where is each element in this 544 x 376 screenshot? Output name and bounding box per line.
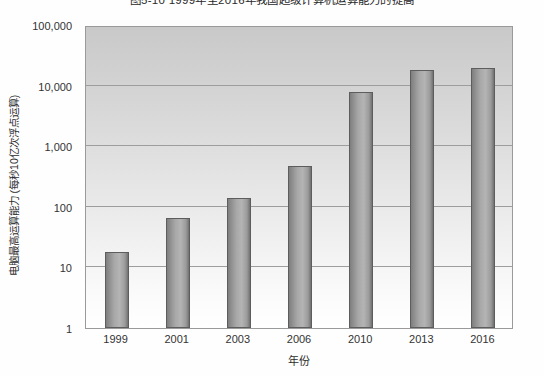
y-tick-label: 1,000: [44, 141, 72, 153]
bar: [227, 198, 251, 328]
plot-area: [85, 26, 513, 329]
chart-title: 图5-10 1999年至2016年我国超级计算机运算能力的提高: [0, 0, 544, 7]
x-axis-tick-labels: 1999 2001 2003 2006 2010 2013 2016: [85, 333, 513, 349]
x-tick-label: 2003: [226, 333, 250, 345]
x-tick-label: 2001: [164, 333, 188, 345]
chart-container: 图5-10 1999年至2016年我国超级计算机运算能力的提高 电脑最高运算能力…: [0, 0, 544, 376]
y-tick-label: 10,000: [38, 81, 72, 93]
bars-layer: [86, 27, 512, 328]
x-axis-title: 年份: [85, 352, 513, 368]
bar: [349, 92, 373, 328]
x-tick-label: 1999: [103, 333, 127, 345]
x-tick-label: 2013: [409, 333, 433, 345]
bar: [410, 70, 434, 328]
bar: [471, 68, 495, 328]
y-tick-label: 1: [66, 323, 72, 335]
x-tick-label: 2016: [470, 333, 494, 345]
y-tick-label: 100,000: [32, 20, 72, 32]
x-tick-label: 2010: [348, 333, 372, 345]
y-tick-label: 10: [60, 262, 72, 274]
x-tick-label: 2006: [287, 333, 311, 345]
bar: [105, 252, 129, 328]
bar: [166, 218, 190, 328]
bar: [288, 166, 312, 328]
y-axis-tick-labels: 100,000 10,000 1,000 100 10 1: [0, 26, 80, 329]
y-tick-label: 100: [54, 202, 72, 214]
